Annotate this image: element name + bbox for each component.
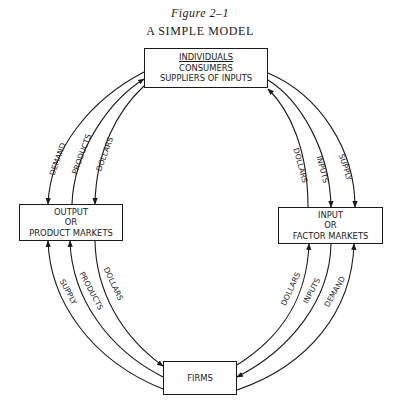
flows-lower-left: SUPPLY PRODUCTS DOLLARS xyxy=(48,241,163,389)
input-markets-box: INPUT OR FACTOR MARKETS xyxy=(278,207,383,244)
flow-inputs-lower-right xyxy=(237,244,331,377)
output-markets-line2: OR xyxy=(65,217,77,228)
firms-box: FIRMS xyxy=(163,361,237,395)
flow-supply-upper-right xyxy=(268,73,355,207)
flows-upper-right: DOLLARS INPUTS SUPPLY xyxy=(268,73,355,207)
individuals-heading: INDIVIDUALS xyxy=(179,52,233,63)
firms-label: FIRMS xyxy=(187,373,213,384)
label-supply-upper-right: SUPPLY xyxy=(337,153,354,182)
label-dollars-lower-left: DOLLARS xyxy=(102,266,125,302)
individuals-consumers: CONSUMERS xyxy=(179,63,233,74)
flow-products-lower-left xyxy=(70,241,163,377)
flows-upper-left: DEMAND PRODUCTS DOLLARS xyxy=(48,72,144,204)
label-supply-lower-left: SUPPLY xyxy=(58,278,79,307)
input-markets-line3: FACTOR MARKETS xyxy=(293,231,369,242)
individuals-suppliers: SUPPLIERS OF INPUTS xyxy=(160,73,252,84)
output-markets-line1: OUTPUT xyxy=(54,207,88,218)
label-products-upper-left: PRODUCTS xyxy=(70,133,93,176)
label-inputs-lower-right: INPUTS xyxy=(301,276,322,305)
label-dollars-upper-left: DOLLARS xyxy=(94,136,115,173)
individuals-box: INDIVIDUALS CONSUMERS SUPPLIERS OF INPUT… xyxy=(144,48,268,88)
label-dollars-lower-right: DOLLARS xyxy=(279,271,302,307)
label-demand-lower-right: DEMAND xyxy=(322,275,347,309)
flow-dollars-upper-right xyxy=(268,89,308,207)
flow-dollars-lower-left xyxy=(95,241,163,366)
input-markets-line1: INPUT xyxy=(318,210,343,221)
input-markets-line2: OR xyxy=(324,220,336,231)
flow-demand-lower-right xyxy=(237,244,354,390)
flows-lower-right: DOLLARS INPUTS DEMAND xyxy=(237,244,354,390)
label-inputs-upper-right: INPUTS xyxy=(315,155,331,184)
output-markets-line3: PRODUCT MARKETS xyxy=(29,228,113,239)
label-products-lower-left: PRODUCTS xyxy=(77,270,105,311)
output-markets-box: OUTPUT OR PRODUCT MARKETS xyxy=(19,204,123,241)
label-dollars-upper-right: DOLLARS xyxy=(291,147,309,184)
label-demand-upper-left: DEMAND xyxy=(48,142,68,177)
flow-dollars-lower-right xyxy=(237,244,309,365)
